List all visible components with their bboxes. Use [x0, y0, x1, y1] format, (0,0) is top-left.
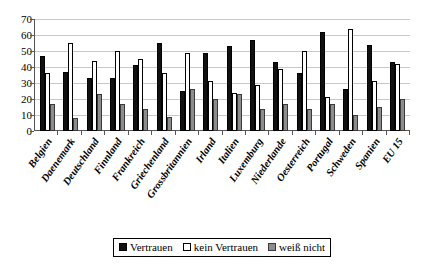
x-axis-label-cell: EU 15: [387, 136, 410, 208]
legend-item: weiß nicht: [268, 241, 325, 253]
y-axis-tick-mark: [30, 35, 34, 36]
y-axis-tick-mark: [30, 131, 34, 132]
y-axis-tick-mark: [30, 67, 34, 68]
legend-item-label: weiß nicht: [279, 241, 325, 253]
black-square-swatch: [119, 243, 127, 251]
legend-item: kein Vertrauen: [183, 241, 258, 253]
x-axis-label-cell: Irland: [199, 136, 222, 208]
gray-square-swatch: [268, 243, 276, 251]
x-axis-labels: BelgienDaenemarkDeutschlandFinnlandFrank…: [35, 136, 410, 208]
y-axis-tick-mark: [30, 51, 34, 52]
y-axis-tick-label: 0: [6, 126, 32, 137]
bar-chart-figure: 010203040506070 BelgienDaenemarkDeutschl…: [0, 0, 421, 273]
y-axis-tick-mark: [30, 99, 34, 100]
y-axis-tick-label: 40: [6, 62, 32, 73]
bar-group: [36, 19, 59, 131]
legend-item: Vertrauen: [119, 241, 173, 253]
legend-item-label: Vertrauen: [130, 241, 173, 253]
x-axis-label-cell: Spanien: [363, 136, 386, 208]
y-axis-tick-label: 70: [6, 14, 32, 25]
y-axis-tick-label: 20: [6, 94, 32, 105]
y-axis-tick-mark: [30, 83, 34, 84]
x-axis-label-cell: Schweden: [340, 136, 363, 208]
white-square-swatch: [183, 243, 191, 251]
chart-legend: Vertrauenkein Vertrauenweiß nicht: [113, 238, 331, 257]
legend-item-label: kein Vertrauen: [194, 241, 258, 253]
y-axis-tick-label: 50: [6, 46, 32, 57]
y-axis-tick-label: 30: [6, 78, 32, 89]
y-axis-tick-label: 60: [6, 30, 32, 41]
y-axis-tick-mark: [30, 19, 34, 20]
y-axis-tick-label: 10: [6, 110, 32, 121]
x-axis-label-cell: Grossbritannien: [176, 136, 199, 208]
y-axis-tick-mark: [30, 115, 34, 116]
